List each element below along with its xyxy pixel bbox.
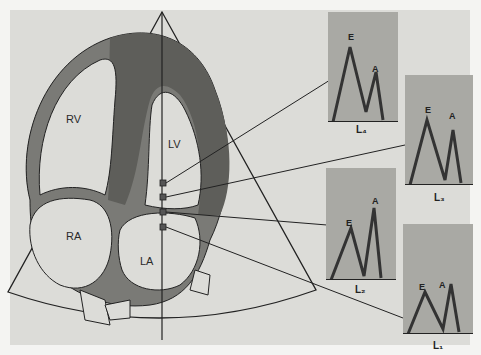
label-la: LA (140, 255, 153, 267)
peak-e: E (348, 32, 354, 42)
doppler-panel-l2: E A (326, 168, 396, 280)
peak-e: E (346, 218, 352, 228)
peak-a: A (372, 64, 379, 74)
label-ra: RA (66, 230, 81, 242)
label-rv: RV (66, 113, 81, 125)
sample-volume-l4 (160, 180, 166, 186)
sample-volume-l1 (160, 224, 166, 230)
peak-e: E (419, 282, 425, 292)
doppler-panel-l4: E A (328, 12, 398, 122)
sample-volume-l2 (160, 209, 166, 215)
peak-a: A (449, 111, 456, 121)
peak-a: A (439, 280, 446, 290)
panel-label-l4: L₄ (356, 124, 367, 135)
peak-e: E (425, 105, 431, 115)
doppler-panel-l1: E A (403, 224, 473, 334)
peak-a: A (372, 196, 379, 206)
doppler-panel-l3: E A (405, 75, 473, 185)
label-lv: LV (168, 138, 181, 150)
panel-label-l2: L₂ (355, 284, 366, 295)
panel-label-l3: L₃ (434, 192, 445, 203)
panel-label-l1: L₁ (433, 340, 443, 351)
sample-volume-l3 (160, 194, 166, 200)
